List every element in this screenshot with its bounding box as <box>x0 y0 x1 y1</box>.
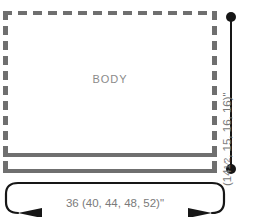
height-dimension: (141⁄2, 15, 16, 16)" <box>224 12 266 174</box>
height-fraction: 1⁄2 <box>216 158 238 170</box>
outline-edge-left <box>3 11 8 172</box>
height-value-rest: , 15, 16, 16)" <box>221 92 233 157</box>
width-dimension-label: 36 (40, 44, 48, 52)" <box>4 197 226 209</box>
schematic-diagram: BODY (141⁄2, 15, 16, 16)" 36 (40, 44, 48… <box>0 0 266 217</box>
body-piece-label: BODY <box>3 73 217 85</box>
arrow-right-icon <box>18 208 42 217</box>
hem-band <box>3 153 217 173</box>
outline-edge-top <box>3 11 217 15</box>
height-dimension-label: (141⁄2, 15, 16, 16)" <box>216 26 238 186</box>
hem-rule-top <box>3 153 217 157</box>
fraction-numerator: 1 <box>222 164 232 169</box>
fraction-denominator: 2 <box>222 158 232 163</box>
body-panel-outline: BODY <box>3 11 217 172</box>
hem-rule-bottom <box>3 169 217 173</box>
arrow-left-icon <box>188 208 212 217</box>
width-dimension: 36 (40, 44, 48, 52)" <box>4 180 226 217</box>
